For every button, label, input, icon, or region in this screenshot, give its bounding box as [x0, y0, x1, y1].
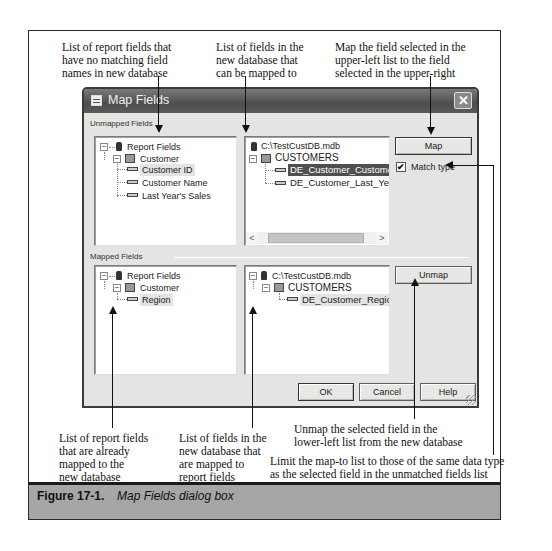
- ok-button[interactable]: OK: [298, 383, 354, 401]
- collapse-icon[interactable]: −: [113, 284, 121, 292]
- collapse-icon[interactable]: −: [113, 155, 121, 163]
- table-icon: [125, 283, 135, 292]
- tree-connector: [265, 164, 266, 183]
- callout-line: [414, 285, 415, 419]
- annotation-line: as the selected field in the unmatched f…: [270, 468, 504, 481]
- tree-node-report-fields[interactable]: Report Fields: [127, 270, 181, 282]
- tree-node-field[interactable]: Region: [140, 294, 173, 306]
- table-icon: [261, 154, 271, 163]
- annotation-line: Map the field selected in the: [335, 41, 466, 54]
- horizontal-scrollbar[interactable]: < >: [246, 232, 388, 244]
- tree-node-database[interactable]: C:\TestCustDB.mdb: [261, 140, 340, 152]
- annotation-unmapped-report-fields: List of report fields that have no match…: [62, 41, 171, 80]
- annotation-line: List of fields in the: [179, 432, 267, 445]
- annotation-line: List of fields in the: [216, 41, 304, 54]
- callout-line: [252, 313, 253, 428]
- close-icon[interactable]: ✕: [454, 92, 472, 109]
- annotation-match-type: Limit the map-to list to those of the sa…: [270, 455, 504, 481]
- annotation-line: are mapped to: [179, 458, 267, 471]
- resize-grip-icon[interactable]: [466, 395, 476, 405]
- annotation-line: that are already: [59, 445, 148, 458]
- annotation-line: new database that: [216, 54, 304, 67]
- annotation-line: have no matching field: [62, 54, 171, 67]
- callout-line: [158, 76, 159, 126]
- scroll-left-icon[interactable]: <: [246, 232, 258, 244]
- field-icon: [127, 193, 138, 197]
- collapse-icon[interactable]: −: [262, 284, 270, 292]
- scrollbar-thumb[interactable]: [268, 233, 364, 243]
- map-button[interactable]: Map: [395, 137, 472, 155]
- tree-connector: [117, 195, 127, 196]
- collapse-icon[interactable]: −: [100, 143, 108, 151]
- field-icon: [127, 180, 138, 184]
- arrow-down-icon: [155, 125, 163, 133]
- field-icon: [127, 297, 138, 301]
- tree-node-customer-table[interactable]: Customer: [140, 282, 179, 294]
- table-icon: [274, 283, 284, 292]
- figure-caption: Figure 17-1. Map Fields dialog box: [28, 482, 501, 520]
- field-icon: [275, 168, 286, 172]
- callout-line: [430, 76, 431, 128]
- mapped-report-fields-tree[interactable]: − Report Fields − Customer Region: [94, 265, 237, 375]
- annotation-line: lower-left list from the new database: [294, 436, 463, 449]
- tree-node-field[interactable]: Last Year's Sales: [142, 190, 211, 202]
- arrow-down-icon: [242, 125, 250, 133]
- scroll-right-icon[interactable]: >: [376, 232, 388, 244]
- collapse-icon[interactable]: −: [249, 272, 257, 280]
- annotation-mapped-report-fields: List of report fields that are already m…: [59, 432, 148, 484]
- collapse-icon[interactable]: −: [249, 155, 257, 163]
- figure-number: Figure 17-1.: [37, 489, 104, 503]
- callout-line: [493, 165, 494, 455]
- tree-node-report-fields[interactable]: Report Fields: [127, 141, 181, 153]
- annotation-line: Limit the map-to list to those of the sa…: [270, 455, 504, 468]
- tree-node-field-selected[interactable]: DE_Customer_Customer_ID: [288, 164, 390, 176]
- dialog-titlebar[interactable]: Map Fields ✕: [84, 89, 477, 113]
- dialog-title: Map Fields: [108, 93, 169, 107]
- tree-connector: [117, 299, 127, 300]
- unmapped-report-fields-tree[interactable]: − Report Fields − Customer Customer ID C…: [94, 136, 237, 246]
- tree-node-customers-table[interactable]: CUSTOMERS: [288, 282, 352, 294]
- cancel-button[interactable]: Cancel: [359, 383, 415, 401]
- annotation-line: names in new database: [62, 67, 171, 80]
- field-icon: [287, 297, 298, 301]
- collapse-icon[interactable]: −: [100, 272, 108, 280]
- unmapped-fields-label: Unmapped Fields: [90, 119, 153, 128]
- mapped-database-fields-tree[interactable]: − C:\TestCustDB.mdb − CUSTOMERS DE_Custo…: [244, 265, 390, 375]
- tree-connector: [117, 182, 127, 183]
- report-icon: [116, 271, 122, 280]
- tree-connector: [109, 276, 115, 277]
- mapped-fields-label: Mapped Fields: [90, 252, 142, 261]
- tree-node-field[interactable]: DE_Customer_Region: [300, 294, 390, 306]
- section-divider: [174, 257, 469, 258]
- annotation-map-button: Map the field selected in the upper-left…: [335, 41, 466, 80]
- tree-node-customers-table[interactable]: CUSTOMERS: [275, 152, 339, 164]
- tree-connector: [117, 169, 127, 170]
- tree-connector: [253, 281, 254, 289]
- tree-node-field[interactable]: Customer Name: [142, 177, 208, 189]
- callout-line: [112, 313, 113, 428]
- field-icon: [275, 181, 286, 185]
- unmap-button[interactable]: Unmap: [395, 266, 472, 284]
- annotation-line: List of report fields: [59, 432, 148, 445]
- annotation-line: List of report fields that: [62, 41, 171, 54]
- annotation-line: Unmap the selected field in the: [294, 423, 463, 436]
- tree-connector: [265, 170, 275, 171]
- report-icon: [116, 142, 122, 151]
- database-icon: [261, 271, 267, 280]
- dialog-app-icon: [91, 95, 102, 106]
- database-icon: [251, 142, 257, 151]
- annotation-line: mapped to the: [59, 458, 148, 471]
- annotation-line: selected in the upper-right: [335, 67, 466, 80]
- figure-title: Map Fields dialog box: [117, 489, 234, 503]
- arrow-down-icon: [427, 127, 435, 135]
- table-icon: [125, 154, 135, 163]
- match-type-checkbox[interactable]: ✔: [396, 162, 406, 172]
- field-icon: [127, 167, 138, 171]
- tree-node-field[interactable]: DE_Customer_Last_Years_S: [290, 177, 390, 189]
- tree-node-database[interactable]: C:\TestCustDB.mdb: [272, 270, 351, 282]
- tree-connector: [104, 152, 105, 160]
- tree-connector: [265, 183, 275, 184]
- tree-node-field[interactable]: Customer ID: [140, 164, 195, 176]
- map-fields-dialog: Map Fields ✕ Unmapped Fields − Report Fi…: [82, 87, 479, 408]
- unmapped-database-fields-tree[interactable]: C:\TestCustDB.mdb − CUSTOMERS DE_Custome…: [244, 136, 390, 246]
